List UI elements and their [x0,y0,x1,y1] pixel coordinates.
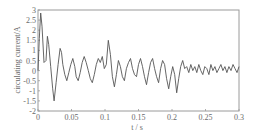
y-tick-label: 2.5 [26,16,36,25]
y-tick-label: -1.5 [23,97,36,106]
y-tick-label: -0.5 [23,77,36,86]
x-tick-label: 0.3 [234,113,244,122]
x-tick-label: 0.05 [65,113,79,122]
plot-frame [38,10,239,111]
line-chart: 32.521.510.50-0.5-1-1.5-2 00.050.10.150.… [0,0,256,133]
y-tick-label: 0.5 [26,57,36,66]
y-tick-label: 1 [32,46,36,55]
x-axis-label: t / s [131,123,143,132]
circulating-current-line [38,13,239,101]
x-tick-label: 0 [36,113,40,122]
y-tick-label: 0 [32,67,36,76]
y-tick-label: 2 [32,26,36,35]
y-tick-label: 1.5 [26,36,36,45]
y-tick-label: -2 [29,107,36,116]
y-axis-label: circulating current/A [13,26,22,93]
y-tick-label: -1 [29,87,36,96]
x-tick-label: 0.1 [100,113,110,122]
x-tick-label: 0.2 [167,113,177,122]
x-tick-label: 0.25 [199,113,213,122]
x-tick-label: 0.15 [132,113,146,122]
y-tick-label: 3 [32,6,36,15]
y-axis-ticks: 32.521.510.50-0.5-1-1.5-2 [23,6,40,116]
